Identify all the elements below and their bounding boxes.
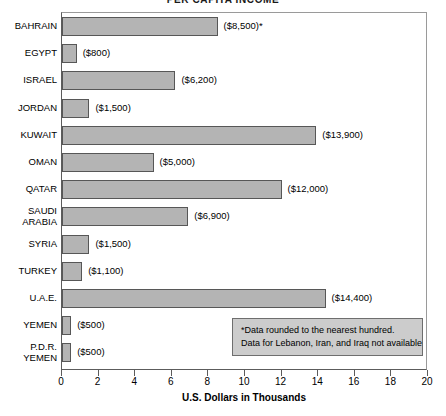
category-label: P.D.R. YEMEN <box>0 342 57 363</box>
x-tick-label: 4 <box>119 376 149 387</box>
bar <box>62 343 71 362</box>
bar-value-label: ($500) <box>77 346 104 357</box>
x-tick-label: 18 <box>375 376 405 387</box>
bar-row: BAHRAIN($8,500)* <box>0 16 446 40</box>
bar-row: JORDAN($1,500) <box>0 98 446 122</box>
footnote-line-1: *Data rounded to the nearest hundred. <box>241 324 422 337</box>
bar <box>62 207 188 226</box>
bar <box>62 262 82 281</box>
bar-value-label: ($800) <box>83 47 110 58</box>
bar <box>62 235 89 254</box>
bar-value-label: ($13,900) <box>322 129 363 140</box>
bar-row: OMAN($5,000) <box>0 152 446 176</box>
category-label: TURKEY <box>0 266 57 277</box>
category-label: SYRIA <box>0 239 57 250</box>
bar-row: TURKEY($1,100) <box>0 261 446 285</box>
bar-row: SYRIA($1,500) <box>0 234 446 258</box>
bar-value-label: ($500) <box>77 319 104 330</box>
bar-value-label: ($1,500) <box>95 238 130 249</box>
category-label: KUWAIT <box>0 130 57 141</box>
x-tick-label: 6 <box>156 376 186 387</box>
bar-value-label: ($1,100) <box>88 265 123 276</box>
bar-row: KUWAIT($13,900) <box>0 125 446 149</box>
bar-value-label: ($6,200) <box>181 74 216 85</box>
x-tick-label: 16 <box>339 376 369 387</box>
category-label: JORDAN <box>0 103 57 114</box>
x-tick-label: 8 <box>192 376 222 387</box>
bar-row: EGYPT($800) <box>0 43 446 67</box>
bar-row: QATAR($12,000) <box>0 179 446 203</box>
bar <box>62 153 154 172</box>
bar <box>62 17 218 36</box>
footnote-line-2: Data for Lebanon, Iran, and Iraq not ava… <box>241 337 422 350</box>
bar-value-label: ($6,900) <box>194 210 229 221</box>
bar-value-label: ($5,000) <box>160 156 195 167</box>
category-label: SAUDI ARABIA <box>0 206 57 227</box>
bar <box>62 126 316 145</box>
category-label: ISRAEL <box>0 75 57 86</box>
category-label: YEMEN <box>0 320 57 331</box>
x-tick-label: 14 <box>302 376 332 387</box>
bar-value-label: ($12,000) <box>288 183 329 194</box>
x-tick-label: 0 <box>46 376 76 387</box>
x-tick-label: 10 <box>229 376 259 387</box>
category-label: EGYPT <box>0 48 57 59</box>
bar <box>62 71 175 90</box>
bar <box>62 99 89 118</box>
category-label: OMAN <box>0 157 57 168</box>
category-label: U.A.E. <box>0 293 57 304</box>
bar-row: SAUDI ARABIA($6,900) <box>0 206 446 230</box>
chart-title: PER CAPITA INCOME <box>0 0 446 5</box>
bar-row: U.A.E.($14,400) <box>0 288 446 312</box>
category-label: BAHRAIN <box>0 21 57 32</box>
bar-row: ISRAEL($6,200) <box>0 70 446 94</box>
x-tick-label: 12 <box>266 376 296 387</box>
per-capita-income-chart: PER CAPITA INCOME BAHRAIN($8,500)*EGYPT(… <box>0 0 446 416</box>
bar <box>62 289 326 308</box>
x-tick-label: 2 <box>83 376 113 387</box>
bar <box>62 44 77 63</box>
bar-value-label: ($8,500)* <box>224 20 263 31</box>
bar-value-label: ($14,400) <box>332 292 373 303</box>
bar <box>62 180 282 199</box>
bar <box>62 316 71 335</box>
bar-value-label: ($1,500) <box>95 102 130 113</box>
category-label: QATAR <box>0 184 57 195</box>
x-axis-title: U.S. Dollars in Thousands <box>61 392 427 403</box>
x-tick-label: 20 <box>412 376 442 387</box>
footnote-box: *Data rounded to the nearest hundred. Da… <box>232 318 423 356</box>
